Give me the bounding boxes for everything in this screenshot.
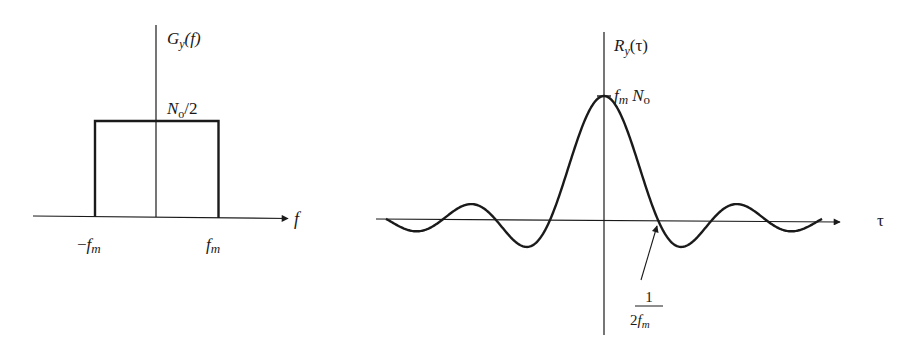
acf-x-axis-label: τ [877, 211, 884, 230]
acf-first-zero-label: 1 2fm [630, 289, 663, 330]
psd-neg-fm-label: −fm [77, 235, 101, 256]
acf-y-axis-label: Ry(τ) [613, 36, 648, 58]
acf-x-axis [376, 219, 840, 222]
psd-x-axis-label: f [294, 209, 302, 229]
diagram-canvas: Gy(f) No/2 f −fm fm Ry(τ) fmNo τ 1 [0, 0, 920, 346]
autocorrelation-plot: Ry(τ) fmNo τ 1 2fm [376, 32, 884, 335]
zero-label-denominator: 2fm [630, 312, 650, 330]
acf-peak-label: fmNo [614, 86, 650, 107]
psd-x-axis [33, 216, 288, 219]
psd-pos-fm-label: fm [206, 235, 220, 256]
zero-label-numerator: 1 [645, 289, 653, 305]
acf-zero-pointer-arrow [641, 226, 657, 280]
psd-y-axis-label: Gy(f) [167, 29, 201, 51]
psd-plot: Gy(f) No/2 f −fm fm [33, 25, 302, 256]
psd-level-label: No/2 [166, 99, 198, 121]
psd-rectangle [95, 121, 219, 218]
